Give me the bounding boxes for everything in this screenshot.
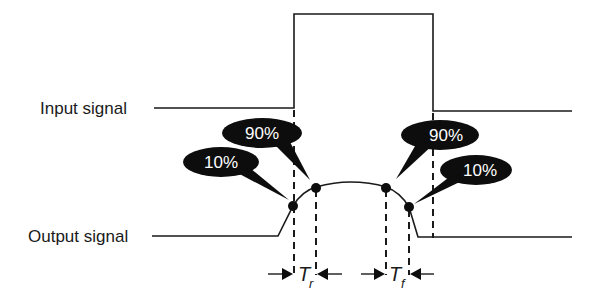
rise-10-point (288, 201, 298, 211)
output-signal-label: Output signal (28, 227, 128, 246)
fall-90-point (381, 183, 391, 193)
callout-fall-10-text: 10% (463, 161, 497, 180)
arrow-left-icon (317, 268, 328, 280)
rise-90-point (311, 183, 321, 193)
input-signal-label: Input signal (40, 99, 127, 118)
callout-fall-10: 10% (414, 155, 512, 204)
callout-rise-10: 10% (183, 147, 289, 200)
arrow-right-icon (374, 268, 385, 280)
rise-time-marker: T r (268, 263, 342, 291)
output-signal-waveform (152, 182, 572, 237)
arrow-left-icon (410, 268, 421, 280)
fall-time-subscript: f (401, 276, 406, 291)
callout-bubbles: 90% 10% 90% 10% (183, 118, 512, 204)
arrow-right-icon (282, 268, 293, 280)
fall-10-point (404, 202, 414, 212)
rise-time-subscript: r (309, 276, 314, 291)
measurement-points (288, 183, 414, 212)
callout-rise-10-text: 10% (204, 153, 238, 172)
fall-time-marker: T f (361, 263, 434, 291)
callout-rise-90-text: 90% (245, 124, 279, 143)
diagram-canvas: 90% 10% 90% 10% Input signal Output sign… (0, 0, 599, 308)
callout-fall-90-text: 90% (429, 126, 463, 145)
signal-timing-diagram: 90% 10% 90% 10% Input signal Output sign… (0, 0, 599, 308)
input-signal-waveform (154, 14, 572, 111)
